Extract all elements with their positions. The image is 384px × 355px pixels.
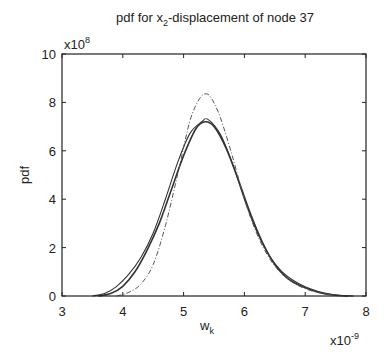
y-tick-label: 2 — [49, 241, 56, 256]
pdf-chart: pdf for x2-displacement of node 37 x108 … — [0, 0, 384, 355]
x-multiplier: x10-9 — [330, 331, 359, 348]
axes: 3456780246810 — [42, 47, 370, 319]
x-tick-label: 5 — [180, 304, 187, 319]
series-line-3 — [117, 94, 354, 296]
x-tick-label: 6 — [241, 304, 248, 319]
chart-title: pdf for x2-displacement of node 37 — [116, 10, 314, 28]
y-tick-label: 6 — [49, 144, 56, 159]
x-tick-label: 8 — [362, 304, 369, 319]
x-tick-label: 3 — [58, 304, 65, 319]
x-axis-label: wk — [199, 318, 214, 336]
plot-area — [92, 94, 353, 296]
axes-box — [62, 54, 366, 296]
y-tick-label: 8 — [49, 95, 56, 110]
series-line-2 — [92, 119, 353, 296]
y-axis-label: pdf — [17, 166, 32, 184]
y-multiplier: x108 — [64, 35, 90, 52]
x-tick-label: 7 — [302, 304, 309, 319]
x-tick-label: 4 — [119, 304, 126, 319]
y-tick-label: 10 — [42, 47, 56, 62]
series-line-1 — [98, 122, 347, 296]
y-tick-label: 4 — [49, 192, 56, 207]
y-tick-label: 0 — [49, 289, 56, 304]
